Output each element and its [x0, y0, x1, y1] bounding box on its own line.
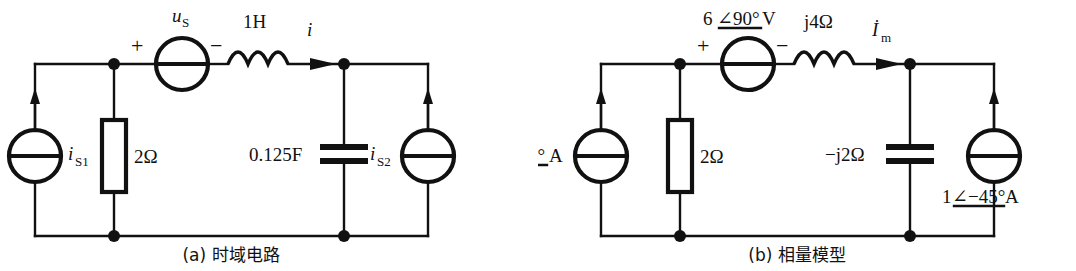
arrow-up-icon: [596, 88, 606, 104]
label-left-unit: A: [549, 145, 563, 166]
arrow-right-icon: [876, 58, 902, 70]
label-vsrc-minus-b: −: [776, 33, 788, 58]
arrow-right-icon: [310, 58, 336, 70]
panel-b-caption: (b) 相量模型: [748, 245, 845, 265]
label-capacitor-a: 0.125F: [249, 144, 302, 165]
label-branch-current-a: i: [307, 19, 312, 40]
circuit-figure: i S1 2Ω u S + − 1H i 0.125F: [0, 0, 1076, 271]
label-branch-current-b: İ: [871, 19, 880, 40]
branch-current-arrow-b: [876, 58, 902, 70]
current-source-is2: [402, 88, 454, 182]
label-is2-sub: S2: [377, 154, 391, 169]
current-source-right-b: [968, 88, 1020, 182]
branch-current-arrow-a: [310, 58, 336, 70]
label-vsrc-unit: V: [762, 8, 776, 29]
label-source-left-b: 0.5 ∠0° A: [538, 145, 563, 166]
current-source-left-b: [575, 88, 627, 182]
label-inductor-a: 1H: [243, 11, 267, 32]
label-source-right-b: 1 ∠−45° A: [942, 186, 1019, 207]
arrow-up-icon: [989, 88, 999, 104]
label-inductor-b: j4Ω: [803, 11, 833, 32]
panel-a-circuit: i S1 2Ω u S + − 1H i 0.125F: [0, 0, 538, 271]
panel-a-caption: (a) 时域电路: [182, 245, 279, 265]
voltage-source-b: [722, 38, 774, 90]
label-left-angle: ∠0°: [538, 145, 545, 166]
label-us-main: u: [172, 5, 182, 26]
label-is1-main: i: [68, 143, 73, 164]
panel-b-circuit: 0.5 ∠0° A 2Ω 6 ∠90° V + − j4Ω: [538, 0, 1076, 271]
inductor-1h: [228, 52, 288, 64]
arrow-up-icon: [423, 88, 433, 104]
label-vsrc-angle: ∠90°: [717, 8, 760, 29]
label-branch-current-sub-b: m: [881, 30, 891, 45]
label-resistor-b: 2Ω: [700, 146, 724, 167]
label-is2-main: i: [370, 143, 375, 164]
inductor-j4ohm: [794, 52, 854, 64]
label-voltage-source-b: 6 ∠90° V: [703, 8, 776, 29]
arrow-up-icon: [30, 88, 40, 104]
label-vsrc-plus-b: +: [697, 33, 709, 58]
label-is1-sub: S1: [75, 154, 89, 169]
current-source-is1: [9, 88, 61, 182]
resistor-2ohm-b: [668, 120, 692, 192]
label-right-unit: A: [1005, 186, 1019, 207]
resistor-2ohm-a: [102, 120, 126, 192]
label-us-plus: +: [131, 33, 143, 58]
label-right-angle: ∠−45°: [952, 186, 1005, 207]
capacitor-0125f: [320, 144, 368, 164]
label-vsrc-magnitude: 6: [703, 8, 713, 29]
label-capacitor-b: −j2Ω: [825, 144, 865, 165]
voltage-source-us: [156, 38, 208, 90]
label-us-minus: −: [210, 33, 222, 58]
label-right-magnitude: 1: [942, 186, 952, 207]
label-us-sub: S: [182, 15, 189, 30]
label-resistor-a: 2Ω: [134, 146, 158, 167]
capacitor-mj2ohm: [886, 144, 934, 164]
